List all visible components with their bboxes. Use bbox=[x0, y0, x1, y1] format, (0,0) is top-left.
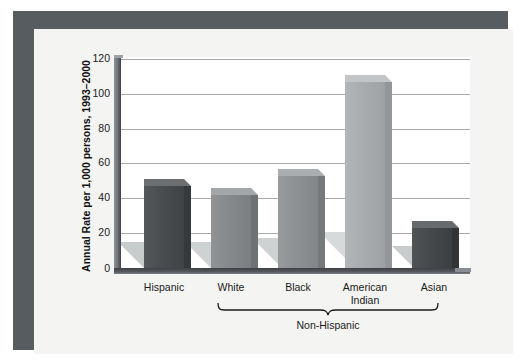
y-axis-title: Annual Rate per 1,000 persons, 1993–2000 bbox=[80, 51, 92, 281]
bar-shadow-hispanic bbox=[118, 242, 144, 268]
bar-black-top bbox=[278, 169, 325, 176]
x-axis-floor bbox=[114, 268, 470, 274]
bar-asian-top bbox=[412, 221, 459, 228]
non-hispanic-bracket bbox=[216, 303, 440, 316]
x-tick-asian: Asian bbox=[388, 281, 480, 294]
gridline-120 bbox=[121, 59, 470, 60]
bar-hispanic-top bbox=[144, 179, 191, 186]
bar-white bbox=[211, 113, 251, 268]
bar-black bbox=[278, 84, 318, 268]
bar-white-face bbox=[211, 195, 251, 268]
bar-hispanic-side bbox=[184, 186, 191, 268]
bar-shadow-asian bbox=[392, 246, 414, 268]
bar-hispanic bbox=[144, 104, 184, 268]
bar-black-side bbox=[318, 176, 325, 268]
non-hispanic-bracket-label: Non-Hispanic bbox=[216, 319, 440, 331]
bar-white-side bbox=[251, 195, 258, 268]
bar-hispanic-face bbox=[144, 186, 184, 268]
y-axis-wall bbox=[114, 57, 121, 271]
x-axis-floor-right bbox=[455, 268, 471, 272]
x-tick-asian-line1: Asian bbox=[388, 281, 480, 294]
bar-american-indian-face bbox=[345, 82, 385, 268]
bar-asian bbox=[412, 148, 452, 268]
bar-american-indian-side bbox=[385, 82, 392, 268]
bar-asian-face bbox=[412, 228, 452, 268]
y-axis-wall-cap bbox=[114, 55, 123, 58]
bar-chart: 120 100 80 60 40 20 0 Annual Rate per 1,… bbox=[0, 0, 521, 362]
bar-black-face bbox=[278, 176, 318, 268]
bar-white-top bbox=[211, 188, 258, 195]
bar-american-indian-top bbox=[345, 75, 392, 82]
bar-american-indian bbox=[345, 0, 385, 268]
figure-root: 120 100 80 60 40 20 0 Annual Rate per 1,… bbox=[0, 0, 521, 362]
bar-asian-side bbox=[452, 228, 459, 268]
